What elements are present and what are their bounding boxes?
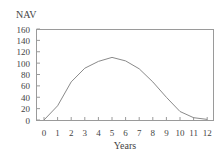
y-tick-label: 160 <box>17 25 31 35</box>
y-tick-label: 20 <box>21 104 31 114</box>
x-tick-label: 6 <box>123 128 128 138</box>
x-tick-label: 9 <box>164 128 169 138</box>
y-tick-label: 0 <box>26 116 31 126</box>
x-tick-label: 3 <box>83 128 88 138</box>
x-tick-label: 5 <box>110 128 115 138</box>
nav-series-line <box>44 57 207 120</box>
y-tick-label: 40 <box>21 93 31 103</box>
x-tick-label: 2 <box>69 128 74 138</box>
y-axis-title: NAV <box>16 9 37 20</box>
x-tick-label: 7 <box>137 128 142 138</box>
x-tick-label: 4 <box>96 128 101 138</box>
x-tick-label: 10 <box>176 128 186 138</box>
x-tick-label: 11 <box>189 128 198 138</box>
x-axis-title: Years <box>114 140 136 151</box>
y-tick-label: 140 <box>17 36 31 46</box>
y-tick-label: 120 <box>17 47 31 57</box>
x-tick-label: 8 <box>151 128 156 138</box>
x-tick-label: 1 <box>55 128 60 138</box>
nav-line-chart: NAV 020406080100120140160 01234567891011… <box>0 0 219 157</box>
x-tick-label: 12 <box>203 128 212 138</box>
x-tick-label: 0 <box>42 128 47 138</box>
y-tick-label: 80 <box>21 70 31 80</box>
plot-frame <box>37 30 214 121</box>
y-tick-label: 60 <box>21 81 31 91</box>
y-tick-label: 100 <box>17 59 31 69</box>
